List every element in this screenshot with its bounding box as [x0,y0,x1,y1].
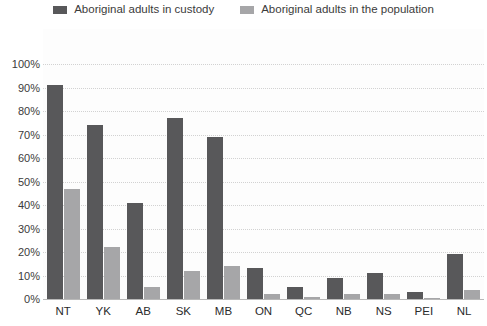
x-axis: NTYKABSKMBONQCNBNSPEINL [43,301,484,323]
bar-group-ns [364,29,404,299]
bar-group-qc [284,29,324,299]
bar-custody-ns [367,273,383,299]
bar-population-sk [184,271,200,299]
y-axis-tick-label: 10% [18,270,40,281]
x-axis-tick-label-nb: NB [324,301,364,318]
x-axis-tick-label-mb: MB [203,301,243,318]
x-axis-tick-label-sk: SK [163,301,203,318]
y-axis-tick-label: 50% [18,176,40,187]
bar-custody-nt [47,85,63,299]
bar-group-nt [43,29,83,299]
bar-group-pei [404,29,444,299]
x-axis-tick-label-nl: NL [444,301,484,318]
bar-group-on [243,29,283,299]
x-axis-tick-label-ns: NS [364,301,404,318]
bar-group-ab [123,29,163,299]
bar-series-container [43,29,484,299]
bar-custody-ab [127,203,143,299]
bar-custody-yk [87,125,103,299]
plot-area [43,29,484,299]
bar-population-ab [144,287,160,299]
chart-legend: Aboriginal adults in custody Aboriginal … [0,0,487,20]
x-axis-tick-label-yk: YK [83,301,123,318]
bar-group-mb [203,29,243,299]
bar-population-nt [64,189,80,299]
bar-population-yk [104,247,120,299]
y-axis-tick-label: 20% [18,247,40,258]
legend-item-population: Aboriginal adults in the population [240,4,434,16]
bar-custody-nl [447,254,463,299]
x-axis-tick-label-ab: AB [123,301,163,318]
bar-group-sk [163,29,203,299]
bar-population-ns [384,294,400,299]
legend-swatch-population-icon [240,6,254,14]
y-axis-tick-label: 100% [12,59,40,70]
y-axis: 0%10%20%30%40%50%60%70%80%90%100% [0,29,40,299]
y-axis-tick-label: 90% [18,82,40,93]
y-axis-tick-label: 70% [18,129,40,140]
bar-custody-pei [407,292,423,299]
y-axis-tick-label: 0% [24,294,40,305]
y-axis-tick-label: 80% [18,106,40,117]
bar-population-nb [344,294,360,299]
bar-population-nl [464,290,480,299]
bar-group-nb [324,29,364,299]
legend-label-custody: Aboriginal adults in custody [74,4,214,16]
bar-population-on [264,294,280,299]
y-axis-tick-label: 60% [18,153,40,164]
x-axis-tick-label-nt: NT [43,301,83,318]
legend-item-custody: Aboriginal adults in custody [53,4,214,16]
y-axis-tick-label: 30% [18,223,40,234]
bar-custody-sk [167,118,183,299]
y-axis-tick-label: 40% [18,200,40,211]
legend-label-population: Aboriginal adults in the population [261,4,434,16]
bar-custody-nb [327,278,343,299]
bar-population-pei [424,298,440,299]
bar-custody-mb [207,137,223,299]
bar-custody-on [247,268,263,299]
bar-population-mb [224,266,240,299]
x-axis-tick-label-qc: QC [284,301,324,318]
x-axis-tick-label-on: ON [243,301,283,318]
x-axis-tick-label-pei: PEI [404,301,444,318]
bar-group-yk [83,29,123,299]
gridline [43,299,484,300]
legend-swatch-custody-icon [53,6,67,14]
bar-group-nl [444,29,484,299]
bar-chart: Aboriginal adults in custody Aboriginal … [0,0,487,326]
bar-population-qc [304,297,320,299]
bar-custody-qc [287,287,303,299]
